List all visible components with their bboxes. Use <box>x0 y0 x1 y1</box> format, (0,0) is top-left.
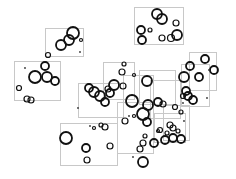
ring-circle <box>41 62 49 70</box>
dot-marker <box>79 51 81 53</box>
ring-circle <box>177 135 185 143</box>
ring-circle <box>133 115 136 118</box>
ring-circle <box>138 157 148 167</box>
ring-circle <box>122 62 126 66</box>
dot-marker <box>132 156 134 158</box>
ring-circle <box>51 77 59 85</box>
ring-circle <box>29 71 41 83</box>
ring-circle <box>165 131 169 135</box>
ring-circle <box>106 89 114 97</box>
dot-marker <box>128 115 130 117</box>
ring-circle <box>126 95 138 107</box>
dot-marker <box>206 97 208 99</box>
ring-circle <box>137 26 145 34</box>
ring-circle <box>137 146 143 152</box>
ring-circle <box>17 86 22 91</box>
ring-circle <box>173 20 179 26</box>
ring-circle <box>56 40 66 50</box>
frame-rectangle <box>104 63 135 100</box>
ring-circle <box>159 35 165 41</box>
ring-circle <box>93 127 96 130</box>
dot-marker <box>208 69 210 71</box>
ring-circle <box>138 36 146 44</box>
ring-circle <box>119 69 125 75</box>
ring-circle <box>84 157 90 163</box>
circles-and-frames-drawing <box>0 0 236 179</box>
frame-rectangle <box>124 76 154 103</box>
ring-circle <box>107 143 113 149</box>
ring-circle <box>195 73 203 81</box>
ring-circle <box>60 132 72 144</box>
ring-circle <box>80 39 83 42</box>
ring-circle <box>148 28 152 32</box>
ring-circle <box>140 140 146 146</box>
ring-circle <box>143 134 147 138</box>
dot-marker <box>89 125 91 127</box>
ring-circle <box>201 55 209 63</box>
ring-circle <box>122 118 128 124</box>
ring-circle <box>102 124 108 130</box>
dot-marker <box>24 67 26 69</box>
dot-marker <box>183 120 185 122</box>
frame-rectangle <box>190 53 217 91</box>
ring-circle <box>176 129 180 133</box>
abstract-circles-canvas <box>0 0 236 179</box>
ring-circle <box>24 96 30 102</box>
dot-marker <box>182 102 184 104</box>
ring-circle <box>179 72 189 82</box>
dot-marker <box>77 107 79 109</box>
frame-rectangle <box>15 62 61 101</box>
ring-circle <box>82 144 90 152</box>
